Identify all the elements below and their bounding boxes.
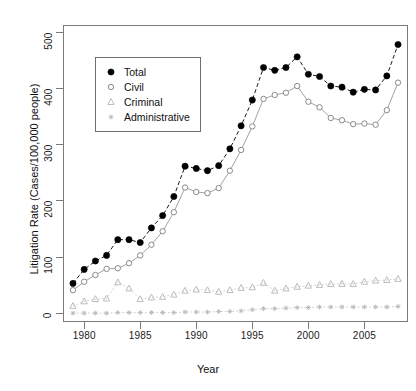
y-tick-mark xyxy=(56,257,63,258)
x-tick-label: 2000 xyxy=(297,330,320,341)
x-tick-mark xyxy=(252,322,253,329)
x-tick-label: 1980 xyxy=(73,330,96,341)
plus-star-icon xyxy=(103,111,119,123)
x-tick-label: 1995 xyxy=(241,330,264,341)
x-tick-mark xyxy=(308,322,309,329)
x-axis-title: Year xyxy=(0,363,416,375)
y-tick-label: 300 xyxy=(43,144,54,161)
legend: TotalCivilCriminalAdministrative xyxy=(95,57,201,132)
litigation-rate-chart: TotalCivilCriminalAdministrative Litigat… xyxy=(0,0,416,391)
legend-item-administrative: Administrative xyxy=(103,110,190,124)
y-tick-mark xyxy=(56,313,63,314)
y-tick-mark xyxy=(56,200,63,201)
y-tick-mark xyxy=(56,88,63,89)
series-criminal xyxy=(70,276,401,309)
legend-item-criminal: Criminal xyxy=(103,95,190,109)
x-tick-label: 1985 xyxy=(129,330,152,341)
x-tick-mark xyxy=(196,322,197,329)
y-tick-label: 400 xyxy=(43,88,54,105)
filled-circle-icon xyxy=(103,66,119,78)
y-tick-label: 200 xyxy=(43,200,54,217)
x-tick-mark xyxy=(140,322,141,329)
y-axis-title: Litigation Rate (Cases/100,000 people) xyxy=(28,49,40,309)
triangle-icon xyxy=(103,96,119,108)
legend-label: Total xyxy=(124,66,146,78)
legend-label: Administrative xyxy=(124,111,190,123)
legend-item-civil: Civil xyxy=(103,80,190,94)
x-tick-mark xyxy=(364,322,365,329)
legend-label: Civil xyxy=(124,81,144,93)
y-tick-label: 500 xyxy=(43,32,54,49)
y-tick-label: 0 xyxy=(43,313,54,319)
y-tick-label: 100 xyxy=(43,257,54,274)
series-administrative xyxy=(71,304,401,316)
open-circle-icon xyxy=(103,81,119,93)
x-tick-mark xyxy=(84,322,85,329)
y-tick-mark xyxy=(56,144,63,145)
legend-label: Criminal xyxy=(124,96,163,108)
x-tick-label: 2005 xyxy=(353,330,376,341)
y-tick-mark xyxy=(56,32,63,33)
legend-item-total: Total xyxy=(103,65,190,79)
x-tick-label: 1990 xyxy=(185,330,208,341)
